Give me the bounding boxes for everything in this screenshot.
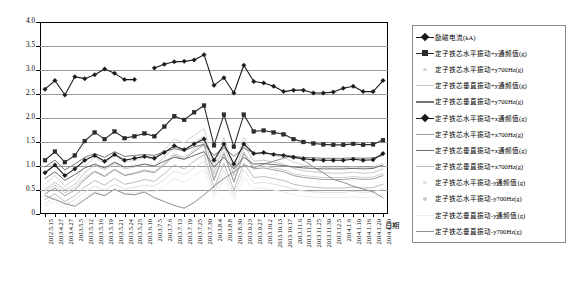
x-axis-tick-label: 2013.10.13 [277,219,284,248]
data-point-marker [182,59,187,64]
legend-item[interactable]: 定子铁芯水平振动-y通频值(g) [415,175,563,191]
y-axis-tick-label: 2.0 [26,114,35,121]
data-point-marker [351,84,356,89]
x-axis-tick-label: 2013.7.13 [177,219,184,245]
x-axis-tick-mark [144,214,145,217]
data-point-marker [192,58,197,63]
legend-key [415,63,435,75]
data-point-marker [172,60,177,64]
legend-item[interactable]: 励磁电流(kA) [415,29,563,45]
legend-item[interactable]: 定子铁芯垂直振动+y通频值(g) [415,78,563,94]
x-axis-tick-label: 2013.4.27 [68,219,75,245]
y-axis-tick-label: 4.0 [26,18,35,25]
x-axis-tick-label: 2013.5.12 [88,219,95,245]
x-axis-tick-mark [214,214,215,217]
x-axis-tick-mark [383,214,384,217]
data-point-marker [172,114,176,118]
legend-key [415,193,435,205]
x-axis-tick-mark [274,214,275,217]
data-point-marker [202,104,206,108]
legend-label: 定子铁芯水平振动-y通频值(g) [435,179,525,186]
x-axis-tick-label: 2014.1.16 [366,219,373,245]
data-point-marker [53,150,57,154]
x-axis-tick-mark [353,214,354,217]
legend-item[interactable]: 定子铁芯垂直振动-y700Hz(g) [415,223,563,239]
x-axis-tick-label: 2013.5.21 [118,219,125,245]
data-point-marker [321,91,326,96]
legend-item[interactable]: 定子铁芯垂直振动+y700Hz(g) [415,94,563,110]
x-axis-tick-mark [55,214,56,217]
legend-key [415,161,435,173]
legend-label: 励磁电流(kA) [435,34,475,41]
legend-key [415,128,435,140]
legend-label: 定子铁芯水平振动+x通频值(g) [435,115,527,122]
x-axis-tick-label: 2013.7.19 [187,219,194,245]
legend-key [415,96,435,108]
legend-item[interactable]: 定子铁芯水平振动-y700Hz(g) [415,191,563,207]
data-point-marker [73,74,78,79]
legend-label: 定子铁芯水平振动-y700Hz(g) [435,195,522,202]
data-point-marker [103,137,107,141]
data-point-marker [232,145,236,149]
data-point-marker [162,62,167,67]
x-axis-tick-label: 2013.4.27 [58,219,65,245]
x-axis-tick-label: 2013.9.27 [257,219,264,245]
data-series [45,155,383,208]
data-point-marker [143,131,147,135]
legend-item[interactable]: 定子铁芯垂直振动+x通频值(g) [415,142,563,158]
x-axis-tick-label: 2013.11.20 [306,219,313,248]
x-axis-tick-label: 2013.5.19 [108,219,115,245]
data-point-marker [182,147,187,152]
y-axis-tick-label: 3.5 [26,42,35,49]
x-axis-tick-mark [164,214,165,217]
x-axis-tick-mark [264,214,265,217]
data-point-marker [341,143,345,147]
y-axis-tick-label: 3.0 [26,66,35,73]
x-axis-tick-label: 2013.11.25 [316,219,323,248]
legend-item[interactable]: 定子铁芯水平振动+y700Hz(g) [415,61,563,77]
data-point-marker [133,134,137,138]
x-axis-tick-label: 2013.10.2 [267,219,274,245]
series-layer [40,22,388,214]
data-point-marker [83,139,87,143]
legend-square-marker-icon [422,50,428,56]
data-point-marker [301,88,306,93]
legend-key [415,225,435,237]
data-point-marker [311,91,316,96]
x-axis-tick-label: 2013.12.5 [336,219,343,245]
data-point-marker [83,76,88,81]
x-axis-tick-mark [254,214,255,217]
legend-item[interactable]: 定子铁芯垂直振动-y通频值(g) [415,207,563,223]
x-axis-tick-mark [373,214,374,217]
data-point-marker [73,154,77,158]
legend-key [415,209,435,221]
legend-item[interactable]: 定子铁芯垂直振动+x700Hz(g) [415,159,563,175]
x-axis-tick-mark [194,214,195,217]
x-axis-tick-mark [313,214,314,217]
legend-label: 定子铁芯水平振动+y700Hz(g) [435,66,523,73]
data-series [43,52,386,97]
legend-line-swatch [416,134,434,135]
chart-legend: 励磁电流(kA)定子铁芯水平振动+y通频值(g)定子铁芯水平振动+y700Hz(… [412,25,566,243]
data-point-marker [152,134,156,138]
x-axis-tick-mark [244,214,245,217]
x-axis-tick-mark [184,214,185,217]
data-point-marker [123,136,127,140]
data-point-marker [292,137,296,141]
x-axis-title: 日期 [385,219,399,230]
x-axis-tick-label: 2013.11.30 [326,219,333,248]
data-point-marker [272,131,276,135]
x-axis-tick-mark [294,214,295,217]
x-axis-tick-mark [333,214,334,217]
data-point-marker [192,110,196,114]
legend-item[interactable]: 定子铁芯水平振动+x通频值(g) [415,110,563,126]
legend-key [415,144,435,156]
x-axis-tick-label: 2013.5.24 [128,219,135,245]
x-axis-tick-mark [363,214,364,217]
legend-item[interactable]: 定子铁芯水平振动+x700Hz(g) [415,126,563,142]
legend-item[interactable]: 定子铁芯水平振动+y通频值(g) [415,45,563,61]
y-axis-tick-label: 1.0 [26,162,35,169]
x-axis-tick-label: 2013.11.6 [297,219,304,244]
x-axis-tick-mark [115,214,116,217]
data-point-marker [152,66,157,71]
